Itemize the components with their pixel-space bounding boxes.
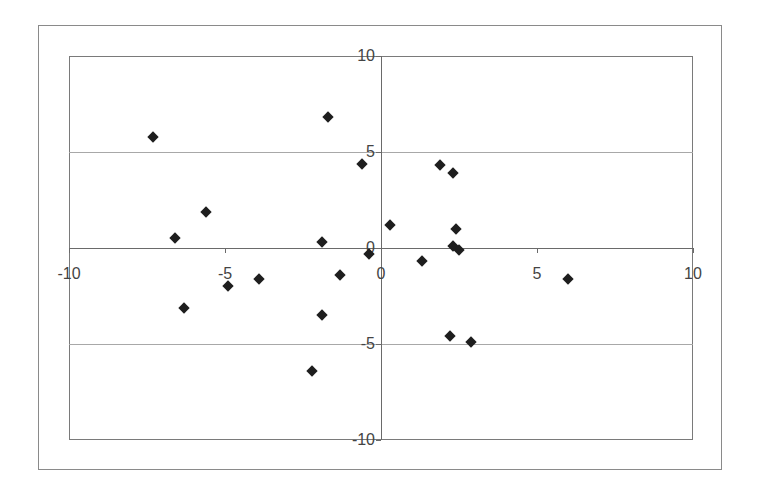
x-tick-label: 0 (377, 266, 386, 282)
x-tick-label: 5 (533, 266, 542, 282)
x-tick-mark (225, 248, 226, 253)
y-tick-mark (376, 248, 381, 249)
x-tick-label: 10 (684, 266, 702, 282)
y-tick-mark (376, 152, 381, 153)
y-tick-label: -5 (335, 336, 375, 352)
x-tick-mark (381, 248, 382, 253)
y-tick-label: -10 (335, 432, 375, 448)
x-tick-label: -10 (57, 266, 80, 282)
y-tick-mark (376, 440, 381, 441)
y-tick-mark (376, 344, 381, 345)
x-tick-mark (537, 248, 538, 253)
x-tick-label: -5 (218, 266, 232, 282)
x-tick-mark (69, 248, 70, 253)
y-tick-label: 5 (335, 144, 375, 160)
y-tick-mark (376, 56, 381, 57)
x-tick-mark (693, 248, 694, 253)
y-tick-label: 10 (335, 48, 375, 64)
